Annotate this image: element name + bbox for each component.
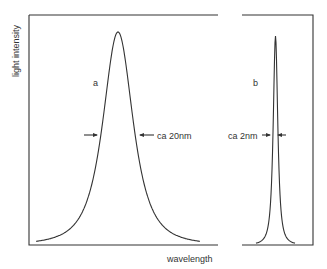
fwhm-annotation-b: ca 2nm — [228, 131, 258, 141]
spectrum-chart: a b ca 20nm ca 2nm wavelength light inte… — [0, 0, 327, 269]
peak-label-b: b — [253, 78, 258, 88]
y-axis-label: light intensity — [11, 24, 21, 77]
fwhm-arrows-a — [84, 133, 154, 137]
x-axis-label: wavelength — [166, 254, 213, 264]
peak-label-a: a — [93, 78, 98, 88]
fwhm-arrows-b — [262, 133, 286, 137]
fwhm-annotation-a: ca 20nm — [157, 131, 192, 141]
curve-b — [256, 36, 295, 243]
